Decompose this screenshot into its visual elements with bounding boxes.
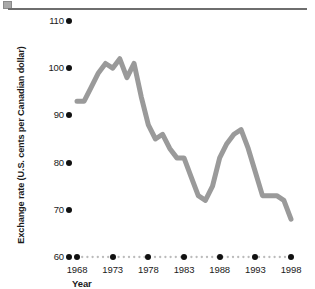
y-tick-dot-70	[66, 207, 72, 213]
x-tick-dot-1983	[181, 254, 187, 260]
x-tick-dot-1973	[110, 254, 116, 260]
x-tick-dot-1988	[217, 254, 223, 260]
y-tick-dot-80	[66, 160, 72, 166]
page-header-rule	[0, 0, 315, 12]
x-tick-label-1968: 1968	[57, 264, 97, 276]
y-tick-label-60: 60	[30, 251, 64, 263]
x-axis-title: Year	[72, 278, 132, 289]
x-tick-label-1973: 1973	[93, 264, 133, 276]
x-tick-dot-1968	[74, 254, 80, 260]
y-tick-label-110: 110	[30, 15, 64, 27]
y-tick-dot-110	[66, 18, 72, 24]
x-tick-label-1993: 1993	[235, 264, 275, 276]
y-tick-label-100: 100	[30, 62, 64, 74]
x-tick-label-1983: 1983	[164, 264, 204, 276]
x-tick-label-1988: 1988	[200, 264, 240, 276]
header-divider	[8, 8, 307, 10]
plot-area	[0, 12, 315, 289]
exchange-rate-line	[77, 59, 291, 219]
x-tick-dot-1998	[288, 254, 294, 260]
y-tick-label-90: 90	[30, 109, 64, 121]
x-tick-label-1998: 1998	[271, 264, 311, 276]
y-tick-dot-60	[66, 254, 72, 260]
x-tick-label-1978: 1978	[128, 264, 168, 276]
y-tick-label-70: 70	[30, 204, 64, 216]
y-tick-label-80: 80	[30, 157, 64, 169]
chart-figure: Exchange rate (U.S. cents per Canadian d…	[0, 12, 315, 289]
